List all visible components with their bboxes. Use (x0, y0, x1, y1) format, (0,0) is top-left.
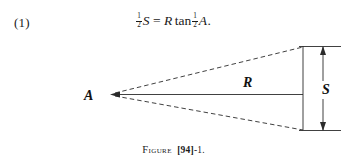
dimension-arrowhead-bottom-icon (320, 122, 326, 131)
equation-expression: 12S=Rtan12A. (0, 13, 347, 30)
upper-side-dashed-line (115, 47, 303, 93)
caption-bracket-number: [94] (177, 145, 194, 155)
diagram-label-radius: R (243, 75, 252, 91)
lower-side-dashed-line (115, 96, 303, 130)
equation-rhs-variable: R (164, 13, 173, 28)
diagram-label-chord: S (320, 81, 332, 99)
figure-page: (1) 12S=Rtan12A. (0, 0, 347, 165)
figure-caption: Figure [94]-1. (0, 144, 347, 155)
half-fraction-left-denominator: 2 (136, 21, 142, 29)
caption-suffix: -1. (194, 145, 205, 155)
equation-lhs-variable: S (142, 13, 150, 28)
diagram-label-apex: A (84, 88, 93, 104)
equation-angle-variable: A (198, 13, 207, 28)
equation-terminator: . (207, 13, 210, 28)
caption-word: Figure (142, 144, 172, 155)
diagram-canvas (0, 36, 347, 141)
half-fraction-right-numerator: 1 (192, 13, 198, 20)
figure-diagram: A R S (0, 36, 347, 141)
half-fraction-right-denominator: 2 (192, 21, 198, 29)
equation-function: tan (173, 13, 193, 28)
half-fraction-left-numerator: 1 (136, 13, 142, 20)
half-fraction-left: 12 (136, 13, 142, 29)
dimension-arrowhead-top-icon (320, 46, 326, 55)
apex-arrowhead-icon (110, 91, 120, 97)
equation-operator: = (150, 13, 164, 28)
half-fraction-right: 12 (192, 13, 198, 29)
